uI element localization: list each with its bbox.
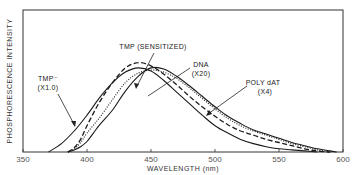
y-axis-title: PHOSPHORESCENCE INTENSITY: [6, 19, 13, 144]
annotation-tmp-sensitized-label: TMP (SENSITIZED): [119, 43, 186, 51]
annotation-poly-dat: POLY dAT (X4): [206, 79, 281, 116]
x-tick-label: 450: [144, 155, 158, 164]
x-tick-label: 350: [16, 155, 30, 164]
annotation-poly-dat-arrow: [208, 86, 247, 114]
x-axis-title: WAVELENGTH (nm): [147, 165, 219, 173]
arrowhead-icon: [134, 83, 139, 89]
phosphorescence-chart: 350400450500550600 WAVELENGTH (nm) PHOSP…: [0, 0, 355, 175]
annotation-dna-label: DNA: [193, 61, 209, 68]
annotation-dna-scale: (X20): [192, 70, 211, 78]
annotation-poly-dat-label: POLY dAT: [246, 79, 281, 86]
series-line-3: [68, 67, 337, 152]
annotation-tmp-anion-scale: (X1.0): [38, 84, 59, 92]
x-tick-label: 400: [80, 155, 94, 164]
x-tick-label: 550: [272, 155, 286, 164]
annotation-poly-dat-scale: (X4): [258, 88, 272, 96]
series-line-2: [68, 70, 330, 152]
x-tick-label: 500: [208, 155, 222, 164]
arrowhead-icon: [71, 121, 76, 127]
annotation-tmp-anion-label: TMP⁻: [38, 75, 58, 82]
x-tick-label: 600: [336, 155, 350, 164]
x-axis-ticks: 350400450500550600: [16, 149, 350, 164]
arrowhead-icon: [206, 110, 212, 116]
annotation-tmp-anion: TMP⁻ (X1.0): [38, 75, 76, 127]
